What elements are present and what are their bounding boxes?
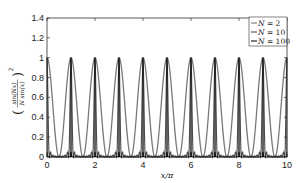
chart: 024681000.20.40.60.811.21.4 N = 2N = 10N… [0,0,303,183]
x-tick-label: 6 [188,160,193,170]
svg-text:(: ( [10,110,25,115]
y-axis-label: sin(Nx)N sin(x)()2 [7,67,25,115]
svg-text:2: 2 [7,67,14,71]
svg-text:): ) [10,72,25,77]
y-tick-label: 0 [39,152,44,162]
series-line [47,58,287,157]
x-tick-label: 0 [44,160,49,170]
y-tick-label: 1.2 [31,33,44,43]
x-tick-label: 8 [236,160,241,170]
legend-item: N = 10 [257,28,285,37]
y-tick-label: 0.4 [31,112,44,122]
svg-text:sin(Nx): sin(Nx) [10,82,17,105]
svg-text:N sin(x): N sin(x) [18,81,25,107]
x-tick-label: 2 [92,160,97,170]
y-tick-label: 0.8 [31,73,44,83]
x-tick-label: 4 [140,160,145,170]
y-tick-label: 0.6 [31,92,44,102]
y-tick-label: 1.4 [31,13,44,23]
legend: N = 2N = 10N = 100 [249,17,290,46]
x-axis-label: x/π [161,171,174,180]
y-tick-label: 0.2 [31,132,44,142]
legend-item: N = 100 [257,37,290,46]
plot-curves [47,58,287,157]
legend-item: N = 2 [257,19,281,28]
x-tick-label: 10 [282,160,292,170]
y-tick-label: 1 [39,53,44,63]
